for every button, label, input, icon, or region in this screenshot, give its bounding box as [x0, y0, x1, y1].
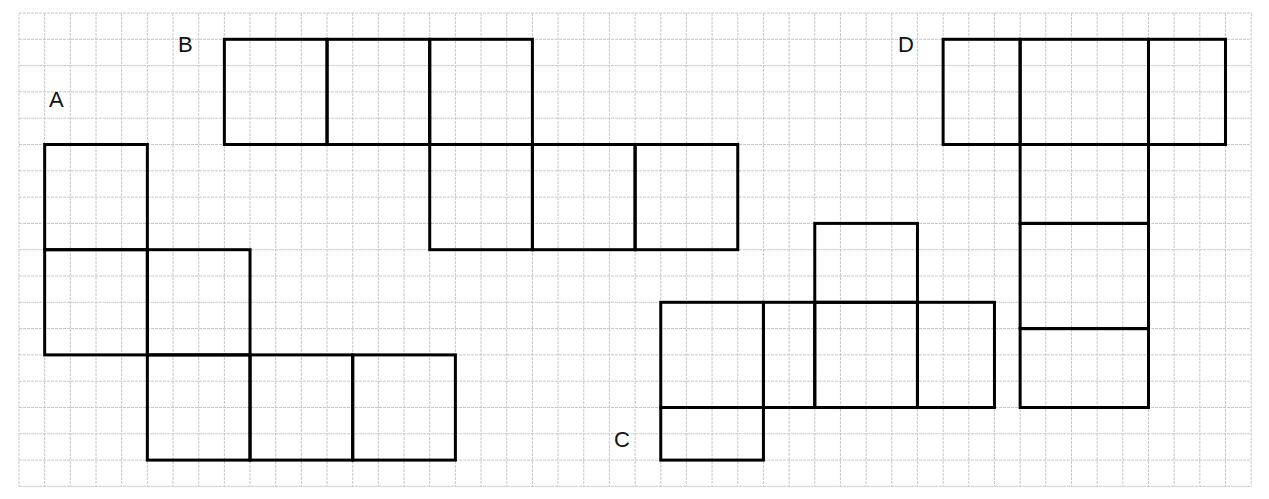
net-label-b: B: [178, 34, 193, 56]
net-label-c: C: [614, 429, 630, 451]
net-label-d: D: [898, 34, 914, 56]
net-face: [1020, 329, 1148, 408]
net-label-a: A: [49, 89, 64, 111]
diagram-canvas: [0, 0, 1269, 499]
net-c: [661, 223, 995, 460]
net-face: [1020, 145, 1148, 224]
